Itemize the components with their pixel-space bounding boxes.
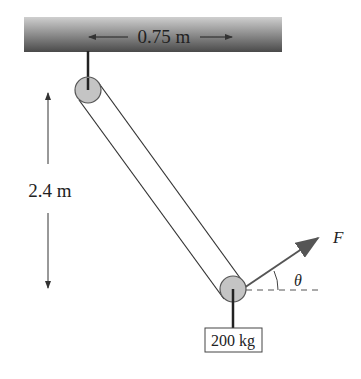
rope-right xyxy=(98,82,243,282)
angle-label: θ xyxy=(294,272,302,289)
angle-arc xyxy=(274,271,278,290)
rope-left xyxy=(79,100,224,299)
mass-label: 200 kg xyxy=(211,332,255,350)
height-label: 2.4 m xyxy=(28,180,72,201)
width-label: 0.75 m xyxy=(138,26,191,47)
force-label: F xyxy=(332,228,344,247)
pulley-diagram: 0.75 m F θ 200 kg 2.4 m xyxy=(0,0,361,379)
